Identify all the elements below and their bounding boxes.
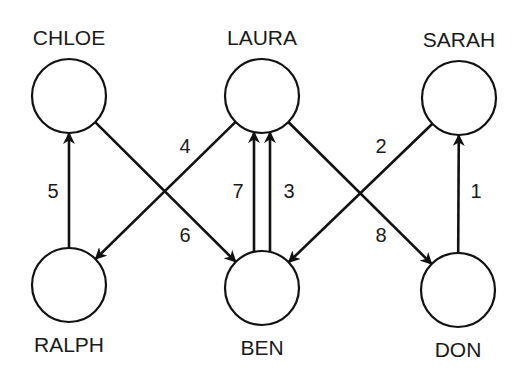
- node-sarah: SARAH: [422, 28, 496, 135]
- node-don: DON: [421, 253, 495, 361]
- node-ben: BEN: [225, 251, 299, 359]
- node-label: SARAH: [423, 28, 495, 51]
- edge-label: 7: [232, 180, 243, 202]
- node-circle: [32, 248, 106, 322]
- node-label: DON: [435, 338, 482, 361]
- node-chloe: CHLOE: [32, 26, 106, 133]
- node-label: BEN: [240, 336, 283, 359]
- edge-label: 6: [179, 224, 190, 246]
- node-label: RALPH: [34, 333, 104, 356]
- directed-graph-diagram: CHLOELAURASARAHRALPHBENDON 12345678: [0, 0, 524, 375]
- node-label: LAURA: [227, 26, 297, 49]
- nodes-layer: CHLOELAURASARAHRALPHBENDON: [32, 26, 496, 361]
- node-label: CHLOE: [33, 26, 105, 49]
- node-circle: [225, 251, 299, 325]
- node-circle: [422, 61, 496, 135]
- edge-label: 3: [283, 180, 294, 202]
- edge-don-to-sarah-1: [458, 135, 459, 253]
- node-ralph: RALPH: [32, 248, 106, 356]
- edge-label: 1: [470, 180, 481, 202]
- node-circle: [32, 59, 106, 133]
- edge-label: 4: [179, 135, 190, 157]
- node-circle: [421, 253, 495, 327]
- node-circle: [225, 59, 299, 133]
- edge-label: 8: [375, 224, 386, 246]
- edge-label: 2: [375, 135, 386, 157]
- edge-labels-layer: 12345678: [47, 135, 481, 246]
- edges-layer: [69, 122, 459, 264]
- node-laura: LAURA: [225, 26, 299, 133]
- edge-label: 5: [47, 180, 58, 202]
